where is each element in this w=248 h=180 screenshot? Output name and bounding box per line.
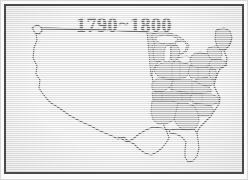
- region-massachusetts: [209, 59, 227, 69]
- us-map-illustration: [6, 6, 242, 172]
- lake-michigan: [164, 45, 171, 64]
- region-pennsylvania: [188, 66, 212, 79]
- region-mississippi-territory: [151, 101, 178, 124]
- screenshot-root: 1790~1800: [0, 0, 248, 180]
- region-kentucky: [152, 78, 174, 92]
- pacific-northwest-hook: [33, 25, 42, 34]
- map-plate-frame: 1790~1800: [4, 4, 244, 174]
- region-maine: [215, 28, 232, 50]
- region-florida-peninsula: [169, 129, 199, 162]
- region-north-carolina: [190, 94, 220, 105]
- region-ohio-indiana: [154, 62, 192, 79]
